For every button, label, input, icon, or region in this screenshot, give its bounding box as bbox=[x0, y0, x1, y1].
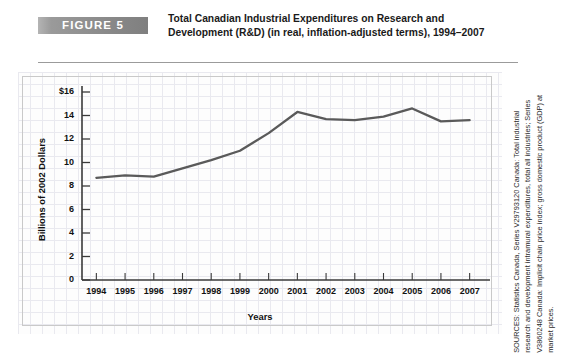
plot-tick-marks bbox=[82, 92, 470, 280]
y-tick-label: $16 bbox=[40, 86, 74, 96]
sources-text: SOURCES: Statistics Canada, Series V2979… bbox=[511, 87, 557, 353]
x-tick-label: 2007 bbox=[453, 286, 487, 296]
figure-number-badge: FIGURE 5 bbox=[38, 17, 148, 34]
data-series-line bbox=[96, 108, 469, 177]
sources-note: SOURCES: Statistics Canada, Series V2979… bbox=[496, 72, 572, 338]
y-axis-title: Billions of 2002 Dollars bbox=[36, 120, 47, 260]
figure-header: FIGURE 5 Total Canadian Industrial Expen… bbox=[0, 0, 576, 70]
y-tick-label: 14 bbox=[40, 110, 74, 120]
y-tick-label: 0 bbox=[40, 274, 74, 284]
header-divider bbox=[38, 62, 518, 63]
x-axis-title: Years bbox=[18, 311, 502, 322]
chart-region: 02468101214$16 1994199519961997199819992… bbox=[18, 72, 502, 334]
figure-title: Total Canadian Industrial Expenditures o… bbox=[168, 12, 498, 39]
